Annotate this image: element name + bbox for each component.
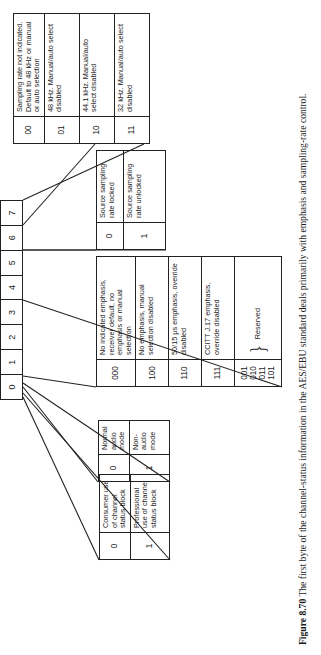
code-cell: 01 xyxy=(44,117,79,144)
desc-cell: 44.1 kHz. Manual/auto select disabled xyxy=(79,14,114,117)
desc-cell: Consumer use of channel status block xyxy=(100,475,131,533)
table-row: 11 32 kHz. Manual/auto select disabled xyxy=(114,14,149,144)
table-row: 0 Source sampling rate locked xyxy=(97,151,124,250)
reserved-label-cell: } Reserved xyxy=(235,257,282,360)
bit-cell-4: 4 xyxy=(1,275,22,300)
desc-cell: 50/15 µs emphasis, override disabled xyxy=(169,257,202,360)
table-row: 1 Non-audio mode xyxy=(129,421,169,482)
code-cell: 000 xyxy=(97,360,136,387)
desc-cell: No indicated emphasis, receiver default,… xyxy=(97,257,136,360)
bit0-usage-table: 0 Consumer use of channel status block 1… xyxy=(99,474,170,560)
code-cell: 00 xyxy=(14,117,45,144)
table-row: 00 Sampling rate not indicated. Default … xyxy=(14,14,45,144)
bit-cell-6: 6 xyxy=(1,225,22,250)
desc-cell: Sampling rate not indicated. Default to … xyxy=(14,14,45,117)
reserved-codes-cell: 001 010 011 101 xyxy=(235,360,282,387)
bit-cell-5: 5 xyxy=(1,250,22,275)
reserved-label: Reserved xyxy=(254,308,263,339)
table-row-reserved: 001 010 011 101 } Reserved xyxy=(235,257,282,387)
table-row: 000 No indicated emphasis, receiver defa… xyxy=(97,257,136,387)
code-cell: 111 xyxy=(202,360,235,387)
code-cell: 1 xyxy=(129,455,169,482)
code-cell: 0 xyxy=(99,455,130,482)
figure-8-70: 0 1 2 3 4 5 6 7 0 Consumer use of channe… xyxy=(0,0,321,655)
desc-cell: 32 kHz. Manual/auto select disabled xyxy=(114,14,149,117)
bit1-audio-mode-table: 0 Normal audio mode 1 Non-audio mode xyxy=(98,420,170,482)
code-cell: 0 xyxy=(97,223,124,250)
code-cell: 11 xyxy=(114,117,149,144)
code-cell: 110 xyxy=(169,360,202,387)
desc-cell: Source sampling rate locked xyxy=(97,151,124,223)
table-row: 01 48 kHz. Manual/auto select disabled xyxy=(44,14,79,144)
desc-cell: Source sampling rate unlocked xyxy=(124,151,166,223)
bit-index-row: 0 1 2 3 4 5 6 7 xyxy=(0,200,23,400)
table-row: 1 Source sampling rate unlocked xyxy=(124,151,166,250)
desc-cell: Normal audio mode xyxy=(99,421,130,455)
table-row: 1 Professional use of channel status blo… xyxy=(130,475,169,560)
reserved-code: 010 xyxy=(249,362,258,384)
bit-cell-1: 1 xyxy=(1,349,22,374)
bit-cell-7: 7 xyxy=(1,201,22,225)
table-row: 10 44.1 kHz. Manual/auto select disabled xyxy=(79,14,114,144)
code-cell: 1 xyxy=(130,533,169,560)
desc-cell: Non-audio mode xyxy=(129,421,169,455)
bit5-lock-table: 0 Source sampling rate locked 1 Source s… xyxy=(96,150,166,250)
reserved-code: 011 xyxy=(258,362,267,384)
code-cell: 1 xyxy=(124,223,166,250)
bits2-4-emphasis-table: 000 No indicated emphasis, receiver defa… xyxy=(96,256,282,387)
desc-cell: Professional use of channel status block xyxy=(130,475,169,533)
caption-text: The first byte of the channel-status inf… xyxy=(297,94,308,597)
bit-cell-2: 2 xyxy=(1,324,22,349)
figure-caption: Figure 8.70 The first byte of the channe… xyxy=(297,5,308,645)
table-row: 111 CCITT J.17 emphasis, override disabl… xyxy=(202,257,235,387)
table-row: 0 Normal audio mode xyxy=(99,421,130,482)
reserved-code: 101 xyxy=(267,362,276,384)
code-cell: 0 xyxy=(100,533,131,560)
bits6-7-sampling-rate-table: 00 Sampling rate not indicated. Default … xyxy=(13,13,150,144)
brace-icon: } xyxy=(248,342,268,355)
reserved-code: 001 xyxy=(240,362,249,384)
code-cell: 100 xyxy=(136,360,169,387)
desc-cell: CCITT J.17 emphasis, override disabled xyxy=(202,257,235,360)
desc-cell: No emphasis, manual selection disabled xyxy=(136,257,169,360)
bit-cell-3: 3 xyxy=(1,300,22,325)
desc-cell: 48 kHz. Manual/auto select disabled xyxy=(44,14,79,117)
table-row: 100 No emphasis, manual selection disabl… xyxy=(136,257,169,387)
bit-cell-0: 0 xyxy=(1,374,22,399)
table-row: 110 50/15 µs emphasis, override disabled xyxy=(169,257,202,387)
code-cell: 10 xyxy=(79,117,114,144)
caption-label: Figure 8.70 xyxy=(297,599,308,645)
table-row: 0 Consumer use of channel status block xyxy=(100,475,131,560)
